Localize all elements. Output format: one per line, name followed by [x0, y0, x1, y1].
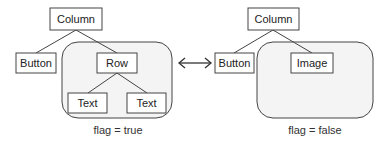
right-button-node: Button — [215, 53, 254, 73]
left-button-label: Button — [20, 57, 52, 69]
right-tree: Column Button Image flag = false — [215, 8, 373, 136]
compose-tree-diagram: Column Button Row Text Text flag = true — [0, 0, 386, 146]
left-caption: flag = true — [93, 124, 142, 136]
row-node: Row — [97, 53, 137, 73]
right-column-node: Column — [248, 8, 299, 30]
text-node-1: Text — [68, 93, 107, 113]
image-node: Image — [291, 53, 333, 73]
image-label: Image — [297, 57, 328, 69]
text-label-2: Text — [136, 97, 156, 109]
double-arrow-icon — [179, 58, 211, 68]
row-label: Row — [106, 57, 128, 69]
left-column-node: Column — [50, 8, 102, 30]
left-tree: Column Button Row Text Text flag = true — [16, 8, 172, 136]
text-node-2: Text — [127, 93, 166, 113]
right-button-label: Button — [219, 57, 251, 69]
left-button-node: Button — [16, 53, 56, 73]
right-caption: flag = false — [288, 124, 342, 136]
text-label-1: Text — [77, 97, 97, 109]
right-column-label: Column — [255, 13, 293, 25]
left-column-label: Column — [57, 13, 95, 25]
